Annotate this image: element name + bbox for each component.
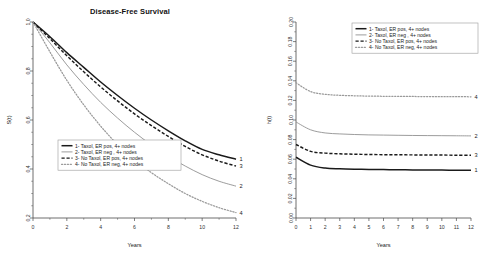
x-axis-label: Years: [127, 242, 141, 248]
y-tick-label: 0.18: [288, 36, 294, 46]
x-tick-label: 4: [99, 224, 102, 230]
x-tick-label: 6: [382, 224, 385, 230]
x-tick-label: 0: [32, 224, 35, 230]
x-axis-label: Years: [376, 242, 390, 248]
hazard-plot: 01234567891011120.000.020.040.060.080.10…: [260, 0, 493, 253]
y-tick-label: 0.14: [288, 76, 294, 86]
curve-end-label-1: 1: [475, 167, 478, 173]
y-tick-label: 0.10: [288, 115, 294, 125]
y-tick-label: 1.0: [25, 18, 31, 25]
curve-end-label-4: 4: [240, 210, 243, 216]
y-tick-label: 0.08: [288, 134, 294, 144]
x-tick-label: 9: [426, 224, 429, 230]
left-chart-panel: Disease-Free Survival 0246810120.20.40.6…: [0, 0, 260, 253]
y-tick-label: 0.16: [288, 56, 294, 66]
y-tick-label: 0.02: [288, 193, 294, 203]
survival-plot: 0246810120.20.40.60.81.0YearsS(t)12341- …: [0, 0, 260, 253]
legend-label-1: 1- Taxol, ER pos, 4+ nodes: [75, 143, 136, 149]
y-tick-label: 0.20: [288, 17, 294, 27]
x-tick-label: 2: [324, 224, 327, 230]
right-chart-panel: 01234567891011120.000.020.040.060.080.10…: [260, 0, 493, 253]
y-tick-label: 0.6: [25, 116, 31, 123]
curve-end-label-4: 4: [475, 94, 478, 100]
y-axis-label: h(t): [266, 116, 272, 125]
x-tick-label: 1: [309, 224, 312, 230]
legend-label-4: 4- No Taxol, ER neg, 4+ nodes: [75, 161, 144, 167]
y-axis-label: S(t): [6, 115, 12, 124]
curve-4: [33, 22, 236, 213]
x-tick-label: 10: [439, 224, 445, 230]
curve-end-label-1: 1: [240, 156, 243, 162]
page-title: Disease-Free Survival: [0, 7, 260, 16]
x-tick-label: 5: [367, 224, 370, 230]
y-tick-label: 0.12: [288, 95, 294, 105]
y-tick-label: 0.00: [288, 213, 294, 223]
x-tick-label: 2: [65, 224, 68, 230]
x-tick-label: 3: [338, 224, 341, 230]
curve-1: [296, 157, 471, 170]
curve-end-label-2: 2: [240, 183, 243, 189]
x-tick-label: 10: [199, 224, 205, 230]
x-tick-label: 12: [468, 224, 474, 230]
y-tick-label: 0.2: [25, 214, 31, 221]
x-tick-label: 6: [133, 224, 136, 230]
curve-4: [296, 83, 471, 97]
y-tick-label: 0.06: [288, 154, 294, 164]
curve-end-label-2: 2: [475, 133, 478, 139]
legend-label-3: 3- No Taxol, ER pos, 4+ nodes: [75, 155, 143, 161]
curve-2: [296, 122, 471, 136]
legend-label-3: 3- No Taxol, ER pos, 4+ nodes: [369, 38, 437, 44]
legend-label-4: 4- No Taxol, ER neg, 4+ nodes: [369, 44, 438, 50]
y-tick-label: 0.8: [25, 67, 31, 74]
x-tick-label: 11: [454, 224, 459, 230]
x-tick-label: 4: [353, 224, 356, 230]
y-tick-label: 0.4: [25, 165, 31, 172]
x-tick-label: 7: [397, 224, 400, 230]
legend-label-2: 2- Taxol, ER neg , 4+ nodes: [75, 149, 137, 155]
legend-label-2: 2- Taxol, ER neg , 4+ nodes: [369, 32, 431, 38]
x-tick-label: 8: [411, 224, 414, 230]
curve-1: [33, 22, 236, 159]
y-tick-label: 0.04: [288, 174, 294, 184]
x-tick-label: 8: [167, 224, 170, 230]
curve-3: [296, 145, 471, 156]
x-tick-label: 12: [233, 224, 239, 230]
legend-label-1: 1- Taxol, ER pos, 4+ nodes: [369, 26, 430, 32]
x-tick-label: 0: [295, 224, 298, 230]
curve-end-label-3: 3: [475, 152, 478, 158]
curve-end-label-3: 3: [240, 163, 243, 169]
